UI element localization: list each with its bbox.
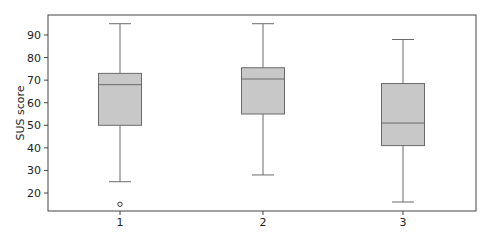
box-2 xyxy=(242,24,285,175)
iqr-box xyxy=(382,84,425,146)
x-tick-label: 3 xyxy=(400,216,407,229)
y-tick-label: 90 xyxy=(27,29,41,42)
box-plot-chart: 2030405060708090 123 SUS score xyxy=(0,0,492,236)
y-tick-label: 40 xyxy=(27,142,41,155)
y-tick-label: 20 xyxy=(27,187,41,200)
y-axis: 2030405060708090 xyxy=(27,29,48,200)
iqr-box xyxy=(99,73,142,125)
x-axis: 123 xyxy=(117,211,407,229)
y-tick-label: 80 xyxy=(27,52,41,65)
x-tick-label: 1 xyxy=(117,216,124,229)
y-tick-label: 50 xyxy=(27,119,41,132)
outlier-point xyxy=(118,202,122,206)
iqr-box xyxy=(242,68,285,114)
x-tick-label: 2 xyxy=(260,216,267,229)
y-tick-label: 70 xyxy=(27,74,41,87)
y-axis-label: SUS score xyxy=(14,85,27,140)
y-tick-label: 30 xyxy=(27,164,41,177)
box-3 xyxy=(382,40,425,203)
plot-area xyxy=(99,24,425,207)
box-1 xyxy=(99,24,142,207)
y-tick-label: 60 xyxy=(27,97,41,110)
